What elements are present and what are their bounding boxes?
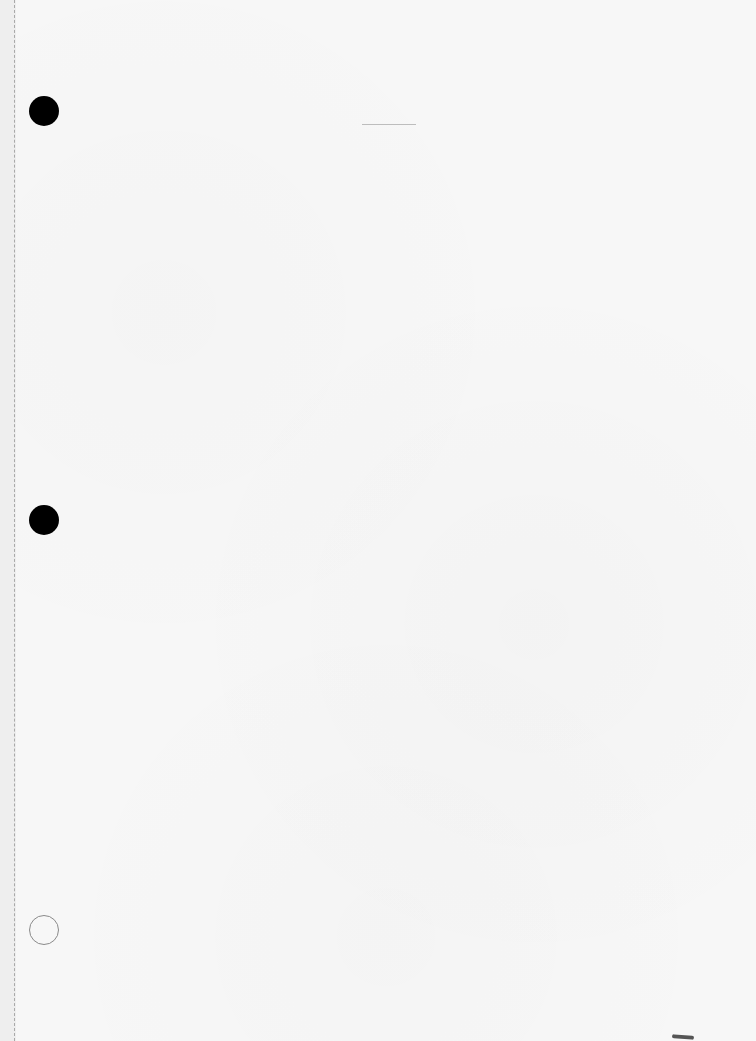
faint-smudge-line [362,124,416,125]
punch-hole-middle-icon [29,505,59,535]
dashed-page-edge [14,0,15,1041]
punch-hole-bottom-outline-icon [29,915,59,945]
paper-sheet [16,0,756,1041]
punch-hole-top-icon [29,96,59,126]
